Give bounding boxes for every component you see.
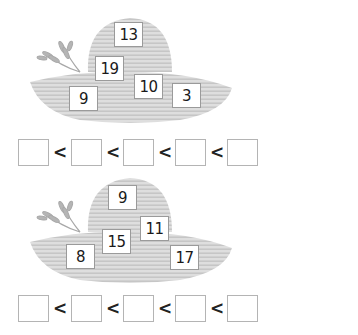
- answer-box[interactable]: [227, 139, 258, 166]
- less-than-symbol: <: [53, 298, 67, 318]
- less-than-symbol: <: [53, 142, 67, 162]
- number-card: 11: [140, 216, 169, 241]
- number-card: 9: [108, 185, 137, 210]
- answer-box[interactable]: [18, 295, 49, 322]
- answer-box[interactable]: [175, 139, 206, 166]
- hat-1-graphic: [0, 0, 260, 130]
- hat-brim: [30, 72, 232, 123]
- wheat-icon: [37, 41, 80, 72]
- less-than-symbol: <: [158, 142, 172, 162]
- answer-box[interactable]: [18, 139, 49, 166]
- number-card: 3: [172, 83, 201, 108]
- number-card: 10: [134, 74, 163, 99]
- number-card: 19: [95, 56, 124, 81]
- number-card: 17: [170, 245, 199, 270]
- number-card: 8: [66, 244, 95, 269]
- less-than-symbol: <: [210, 298, 224, 318]
- wheat-icon: [37, 201, 80, 232]
- number-card: 9: [69, 86, 98, 111]
- less-than-symbol: <: [106, 298, 120, 318]
- hat-illustration-2: 9 11 15 8 17: [0, 170, 260, 290]
- answer-box[interactable]: [123, 295, 154, 322]
- number-card: 15: [102, 229, 131, 254]
- ordering-row-2: < < < <: [0, 295, 270, 323]
- hat-brim: [30, 232, 232, 283]
- less-than-symbol: <: [210, 142, 224, 162]
- answer-box[interactable]: [123, 139, 154, 166]
- answer-box[interactable]: [175, 295, 206, 322]
- less-than-symbol: <: [106, 142, 120, 162]
- hat-illustration-1: 13 19 10 9 3: [0, 0, 260, 130]
- answer-box[interactable]: [71, 139, 102, 166]
- less-than-symbol: <: [158, 298, 172, 318]
- answer-box[interactable]: [227, 295, 258, 322]
- number-card: 13: [114, 22, 143, 47]
- ordering-row-1: < < < <: [0, 139, 270, 167]
- answer-box[interactable]: [71, 295, 102, 322]
